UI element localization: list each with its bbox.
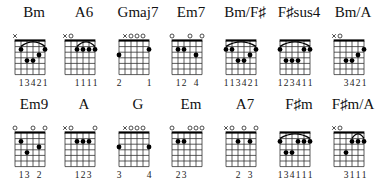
finger-number: 2 (115, 77, 123, 89)
finger-number: 1 (145, 77, 153, 89)
fingering-row: 113421 (218, 77, 272, 89)
fingering-row: 124 (164, 77, 218, 89)
finger-dot (87, 139, 92, 144)
open-string-icon (31, 126, 35, 130)
muted-string-icon (224, 126, 228, 130)
chord-diagram: Bm/A3421 (326, 0, 380, 92)
finger-number: 3 (115, 169, 123, 181)
fretboard-grid (326, 26, 380, 78)
fretboard-grid (272, 26, 326, 78)
finger-number: 1 (360, 169, 368, 181)
nut (172, 131, 203, 133)
nut (119, 131, 150, 133)
finger-dot (19, 47, 24, 52)
fretboard-grid (7, 26, 61, 78)
barre-arc (280, 134, 310, 139)
fingering-row: 23 (164, 169, 218, 181)
finger-dot (43, 47, 48, 52)
finger-dot (19, 139, 24, 144)
finger-dot (230, 47, 235, 52)
finger-dot (344, 150, 349, 155)
open-string-icon (200, 34, 204, 38)
open-string-icon (69, 34, 73, 38)
fretboard-grid (218, 118, 272, 170)
nut (65, 131, 96, 133)
finger-dot (278, 47, 283, 52)
chord-name: Bm/A (316, 3, 390, 21)
fretboard-grid (57, 26, 111, 78)
finger-dot (31, 58, 36, 63)
finger-dot (117, 145, 122, 150)
finger-dot (242, 58, 247, 63)
finger-dot (302, 47, 307, 52)
finger-dot (308, 139, 313, 144)
finger-dot (117, 53, 122, 58)
open-string-icon (13, 126, 17, 130)
open-string-icon (254, 126, 258, 130)
finger-number: 4 (145, 169, 153, 181)
fingering-row: 34 (111, 169, 165, 181)
finger-dot (75, 139, 80, 144)
finger-number: 1 (360, 77, 368, 89)
finger-dot (37, 145, 42, 150)
finger-dot (284, 150, 289, 155)
fingering-row: 132 (7, 169, 61, 181)
nut (226, 131, 257, 133)
open-string-icon (338, 34, 342, 38)
finger-dot (182, 139, 187, 144)
barre-arc (226, 42, 256, 47)
muted-string-icon (332, 126, 336, 130)
finger-dot (254, 47, 259, 52)
finger-number: 1 (306, 77, 314, 89)
fretboard-grid (57, 118, 111, 170)
fingering-row: 3111 (326, 169, 380, 181)
open-string-icon (242, 126, 246, 130)
muted-string-icon (63, 34, 67, 38)
finger-number: 3 (23, 169, 31, 181)
finger-number: 2 (234, 169, 242, 181)
finger-dot (176, 47, 181, 52)
fretboard-grid (326, 118, 380, 170)
open-string-icon (141, 34, 145, 38)
finger-number: 3 (180, 169, 188, 181)
finger-dot (356, 53, 361, 58)
nut (334, 131, 365, 133)
finger-dot (278, 139, 283, 144)
finger-number: 3 (246, 169, 254, 181)
finger-dot (350, 139, 355, 144)
open-string-icon (230, 126, 234, 130)
chord-name: F♯m/A (316, 95, 390, 113)
finger-dot (236, 139, 241, 144)
fingering-row: 1111 (57, 77, 111, 89)
finger-dot (75, 47, 80, 52)
finger-dot (147, 47, 152, 52)
fingering-row: 21 (111, 77, 165, 89)
open-string-icon (200, 126, 204, 130)
muted-string-icon (332, 34, 336, 38)
open-string-icon (170, 126, 174, 130)
fingering-row: 123 (57, 169, 111, 181)
finger-dot (93, 47, 98, 52)
finger-dot (290, 150, 295, 155)
open-string-icon (129, 34, 133, 38)
finger-dot (37, 53, 42, 58)
nut (15, 131, 46, 133)
fretboard-grid (111, 118, 165, 170)
finger-dot (194, 53, 199, 58)
muted-string-icon (123, 126, 127, 130)
nut (119, 39, 150, 41)
open-string-icon (135, 34, 139, 38)
open-string-icon (141, 126, 145, 130)
fingering-row: 23 (218, 169, 272, 181)
fretboard-grid (164, 26, 218, 78)
open-string-icon (129, 126, 133, 130)
open-string-icon (188, 126, 192, 130)
finger-number: 4 (192, 77, 200, 89)
finger-number: 1 (252, 77, 260, 89)
finger-number: 2 (35, 169, 43, 181)
finger-number: 1 (306, 169, 314, 181)
fretboard-grid (7, 118, 61, 170)
open-string-icon (93, 126, 97, 130)
fretboard-grid (111, 26, 165, 78)
fingering-row: 123411 (272, 77, 326, 89)
